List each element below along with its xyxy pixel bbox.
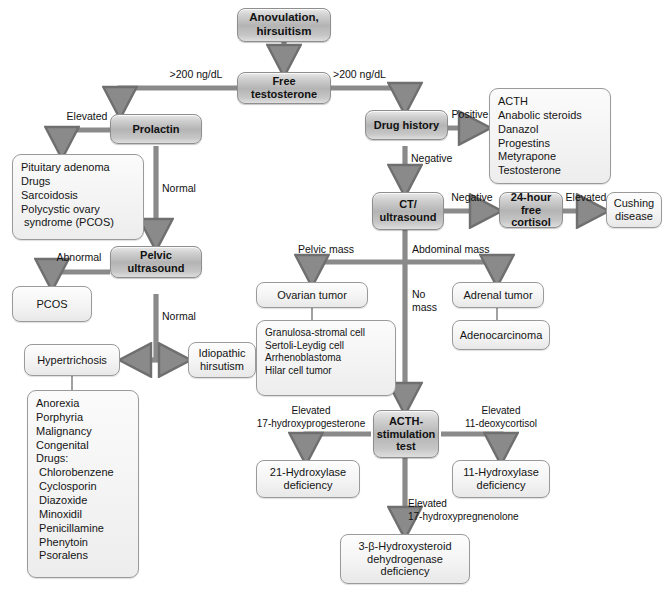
- node-anovulation-label: Anovulation, hirsuitism: [249, 11, 319, 38]
- edge-label-elevated-17-hydroxypregnenolone: Elevated 17-hydroxypregnenolone: [408, 498, 546, 523]
- edge-label-testosterone-left: >200 ng/dL: [156, 68, 236, 80]
- node-hypertrichosis: Hypertrichosis: [24, 344, 120, 376]
- list-item: Diazoxide: [36, 494, 130, 508]
- node-free-testosterone-label: Free testosterone: [251, 75, 317, 101]
- node-idiopathic-hirsutism: Idiopathic hirsutism: [188, 342, 256, 378]
- node-21-hydroxylase-deficiency: 21-Hydroxylase deficiency: [256, 460, 360, 498]
- node-3-beta-hydroxysteroid-deficiency: 3-β-Hydroxysteroid dehydrogenase deficie…: [340, 534, 470, 584]
- list-item: Anabolic steroids: [498, 109, 602, 123]
- node-free-testosterone: Free testosterone: [237, 72, 331, 104]
- list-item: Porphyria: [36, 411, 130, 425]
- node-pelvic-ultrasound-label: Pelvic ultrasound: [128, 249, 185, 275]
- node-11-hydroxylase-deficiency-label: 11-Hydroxylase deficiency: [463, 466, 539, 492]
- edge-label-testosterone-right: >200 ng/dL: [333, 68, 413, 80]
- node-drug-list: ACTH Anabolic steroids Danazol Progestin…: [489, 88, 611, 184]
- edge-label-elevated-11-deoxycortisol: Elevated 11-deoxycortisol: [442, 405, 560, 430]
- list-item: Arrhenoblastoma: [265, 352, 387, 365]
- node-ovarian-tumor-label: Ovarian tumor: [277, 289, 347, 302]
- edge-label-elevated-17-hydroxyprogesterone: Elevated 17-hydroxyprogesterone: [244, 405, 378, 430]
- node-ct-ultrasound-label: CT/ ultrasound: [380, 198, 437, 224]
- list-item: Drugs: [21, 175, 135, 189]
- node-pcos-label: PCOS: [36, 298, 67, 311]
- node-prolactin: Prolactin: [110, 114, 202, 144]
- node-prolactin-causes: Pituitary adenoma Drugs Sarcoidosis Poly…: [12, 154, 144, 240]
- list-item: Cyclosporin: [36, 480, 130, 494]
- list-item: Minoxidil: [36, 508, 130, 522]
- edge-label-pelvic-abnormal: Abnormal: [46, 251, 112, 263]
- list-item: Sarcoidosis: [21, 189, 135, 203]
- node-hypertrichosis-label: Hypertrichosis: [37, 354, 107, 367]
- list-item: Pituitary adenoma: [21, 161, 135, 175]
- list-item: Polycystic ovary: [21, 203, 135, 217]
- list-item: Anorexia: [36, 397, 130, 411]
- node-anovulation: Anovulation, hirsuitism: [237, 8, 331, 42]
- node-cushing-disease-label: Cushing disease: [614, 197, 654, 223]
- list-item: Danazol: [498, 123, 602, 137]
- list-item: Penicillamine: [36, 522, 130, 536]
- list-item: Drugs:: [36, 452, 130, 466]
- edge-label-no-mass: No mass: [412, 288, 452, 314]
- node-11-hydroxylase-deficiency: 11-Hydroxylase deficiency: [452, 460, 550, 498]
- node-adenocarcinoma-label: Adenocarcinoma: [460, 329, 543, 342]
- edge-label-prolactin-normal: Normal: [162, 182, 222, 194]
- node-acth-stimulation-test-label: ACTH- stimulation test: [377, 415, 436, 454]
- edge-label-drug-positive: Positive: [444, 108, 496, 120]
- node-free-cortisol: 24-hour free cortisol: [499, 192, 563, 228]
- list-item: Congenital: [36, 439, 130, 453]
- node-ovarian-tumor-types: Granulosa-stromal cell Sertoli-Leydig ce…: [256, 320, 396, 396]
- list-item: Metyrapone: [498, 150, 602, 164]
- node-21-hydroxylase-deficiency-label: 21-Hydroxylase deficiency: [270, 466, 346, 492]
- list-item: Hilar cell tumor: [265, 365, 387, 378]
- node-adrenal-tumor-label: Adrenal tumor: [463, 289, 532, 302]
- node-ovarian-tumor: Ovarian tumor: [256, 282, 368, 308]
- list-item: Phenytoin: [36, 536, 130, 550]
- node-adrenal-tumor: Adrenal tumor: [452, 282, 544, 308]
- node-acth-stimulation-test: ACTH- stimulation test: [373, 410, 439, 458]
- node-pcos: PCOS: [12, 286, 92, 322]
- list-item: Sertoli-Leydig cell: [265, 340, 387, 353]
- list-item: Psoralens: [36, 549, 130, 563]
- list-item: Malignancy: [36, 425, 130, 439]
- node-adenocarcinoma: Adenocarcinoma: [452, 320, 550, 350]
- node-idiopathic-hirsutism-label: Idiopathic hirsutism: [198, 347, 245, 373]
- edge-label-cortisol-elevated: Elevated: [562, 191, 610, 203]
- node-prolactin-label: Prolactin: [132, 123, 179, 136]
- node-pelvic-ultrasound: Pelvic ultrasound: [110, 246, 202, 278]
- edge-label-ct-negative: Negative: [444, 191, 500, 203]
- edge-label-pelvic-normal: Normal: [162, 310, 222, 322]
- list-item: syndrome (PCOS): [21, 216, 135, 230]
- list-item: ACTH: [498, 95, 602, 109]
- list-item: Progestins: [498, 137, 602, 151]
- list-item: Chlorobenzene: [36, 466, 130, 480]
- node-hypertrichosis-causes: Anorexia Porphyria Malignancy Congenital…: [27, 390, 139, 578]
- node-ct-ultrasound: CT/ ultrasound: [372, 192, 444, 230]
- node-3-beta-hydroxysteroid-deficiency-label: 3-β-Hydroxysteroid dehydrogenase deficie…: [358, 540, 451, 579]
- edge-label-prolactin-elevated: Elevated: [54, 110, 120, 122]
- node-free-cortisol-label: 24-hour free cortisol: [500, 191, 562, 230]
- list-item: Testosterone: [498, 164, 602, 178]
- edge-label-pelvic-mass: Pelvic mass: [286, 243, 366, 255]
- node-cushing-disease: Cushing disease: [606, 192, 662, 228]
- node-drug-history: Drug history: [365, 110, 448, 140]
- edge-label-drug-negative: Negative: [411, 152, 471, 164]
- list-item: Granulosa-stromal cell: [265, 327, 387, 340]
- edge-label-abdominal-mass: Abdominal mass: [412, 243, 512, 255]
- node-drug-history-label: Drug history: [374, 119, 439, 132]
